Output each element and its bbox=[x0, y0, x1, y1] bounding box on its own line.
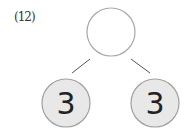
left-connector-line bbox=[72, 59, 90, 73]
left-node: 3 bbox=[42, 79, 90, 127]
right-connector-line bbox=[131, 59, 150, 73]
number-bond-diagram: 3 3 bbox=[0, 0, 186, 135]
left-node-value: 3 bbox=[56, 86, 75, 121]
top-node[interactable] bbox=[87, 8, 135, 56]
right-node: 3 bbox=[131, 79, 179, 127]
right-node-value: 3 bbox=[145, 86, 164, 121]
